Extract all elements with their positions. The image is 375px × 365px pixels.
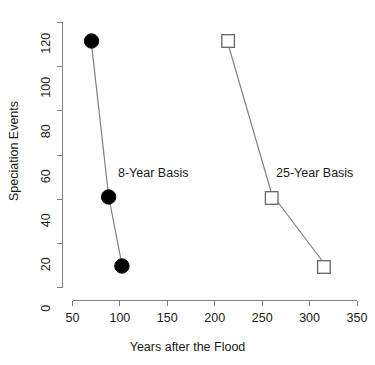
x-tick-label-150: 150 <box>157 312 178 325</box>
y-axis-title: Speciation Events <box>7 71 21 231</box>
data-point-25-year-1 <box>222 35 235 48</box>
series-8-year-basis-line <box>92 44 122 264</box>
data-point-25-year-3 <box>318 261 331 274</box>
plot-area: 50 100 150 200 250 300 350 120 100 80 60… <box>0 0 375 365</box>
x-tick-label-250: 250 <box>252 312 273 325</box>
series-25-year-basis <box>222 35 330 274</box>
series-8-year-basis <box>84 34 129 273</box>
data-point-25-year-2 <box>265 192 278 205</box>
y-tick-label-20: 20 <box>40 249 53 279</box>
data-point-8-year-2 <box>101 190 115 204</box>
y-tick-label-80: 80 <box>40 116 53 146</box>
y-axis <box>57 22 63 287</box>
x-axis-title: Years after the Flood <box>0 340 375 354</box>
y-tick-label-0: 0 <box>40 293 53 323</box>
series-label-25-year-basis: 25-Year Basis <box>276 166 353 180</box>
speciation-events-chart: 50 100 150 200 250 300 350 120 100 80 60… <box>0 0 375 365</box>
x-tick-label-50: 50 <box>66 312 80 325</box>
y-tick-label-100: 100 <box>40 72 53 102</box>
x-tick-label-200: 200 <box>204 312 225 325</box>
data-point-8-year-1 <box>84 34 98 48</box>
series-label-8-year-basis: 8-Year Basis <box>118 166 188 180</box>
series-25-year-basis-line <box>228 44 324 263</box>
y-tick-label-40: 40 <box>40 205 53 235</box>
y-tick-label-120: 120 <box>40 28 53 58</box>
x-tick-label-100: 100 <box>109 312 130 325</box>
x-tick-label-300: 300 <box>299 312 320 325</box>
x-axis <box>73 301 358 307</box>
y-tick-label-60: 60 <box>40 161 53 191</box>
data-point-8-year-3 <box>115 259 129 273</box>
x-tick-label-350: 350 <box>347 312 368 325</box>
